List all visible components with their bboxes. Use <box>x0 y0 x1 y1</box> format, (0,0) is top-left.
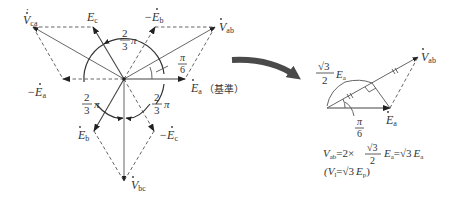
svg-text:2: 2 <box>322 74 328 86</box>
svg-text:Ea: Ea <box>335 68 347 82</box>
phasor-vca <box>33 27 124 79</box>
arc-angle-left <box>84 44 104 82</box>
right-phasor-diagram: Vab Ea √3 2 Ea π 6 Vab=2× √3 2 Ea=√3Ea (… <box>316 50 436 179</box>
fraction-two-thirds-pi-top: 2 3 π <box>120 27 137 52</box>
svg-text:3: 3 <box>122 40 128 52</box>
svg-text:6: 6 <box>180 64 185 75</box>
svg-text:3: 3 <box>154 104 160 116</box>
right-angle-mark <box>365 87 376 92</box>
svg-text:Vab=2×: Vab=2× <box>323 147 354 161</box>
svg-text:π: π <box>164 98 170 110</box>
right-arc-pi-over-6 <box>343 99 345 108</box>
right-brace-right <box>345 80 372 83</box>
dash-vca-minus-ea <box>33 27 63 79</box>
phasor-minus-eb <box>124 27 155 79</box>
arc-angle-bottom-left <box>96 104 123 118</box>
phasor-diagram-canvas: Vca · Ec −Eb Vab Ea （基準） −Ea Eb −Ec Vbc … <box>0 0 458 197</box>
label-minus-ec: −Ec <box>159 128 178 143</box>
label-ec: Ec <box>86 10 98 25</box>
svg-text:2: 2 <box>122 27 128 39</box>
svg-text:Ea=√3Ea: Ea=√3Ea <box>383 147 424 161</box>
origin-point <box>122 77 126 81</box>
svg-text:(Vl=√3Ep): (Vl=√3Ep) <box>324 165 370 179</box>
phasor-vab <box>124 27 215 79</box>
left-phasor-diagram: Vca · Ec −Eb Vab Ea （基準） −Ea Eb −Ec Vbc … <box>23 5 244 193</box>
formula-vab: Vab=2× √3 2 Ea=√3Ea <box>323 142 424 166</box>
formula-line-phase-relation: (Vl=√3Ep) <box>324 165 370 179</box>
svg-text:2: 2 <box>154 91 160 103</box>
svg-text:6: 6 <box>357 128 362 139</box>
label-minus-eb: −Eb <box>144 10 163 25</box>
dash-vab-ea <box>185 27 215 79</box>
svg-text:π: π <box>357 116 363 127</box>
svg-text:π: π <box>180 52 186 63</box>
svg-text:2: 2 <box>370 155 375 166</box>
label-ea: Ea <box>190 81 202 96</box>
right-label-pi-over-6: π 6 <box>355 116 364 139</box>
svg-text:√3: √3 <box>367 142 378 153</box>
svg-text:3: 3 <box>84 104 90 116</box>
svg-text:√3: √3 <box>318 60 330 72</box>
dash-eb-vbc <box>94 131 124 181</box>
label-eb: Eb <box>77 128 89 143</box>
dash-minus-ec-vbc <box>124 131 154 181</box>
svg-text:π: π <box>94 98 100 110</box>
right-label-half-sqrt3-ea: √3 2 Ea <box>316 60 347 86</box>
label-reference: （基準） <box>204 83 244 95</box>
fraction-pi-over-6-left: π 6 <box>178 52 187 75</box>
arc-pi-over-6 <box>150 67 152 79</box>
right-pi6-leader <box>345 102 354 116</box>
right-label-vab: Vab <box>421 50 436 65</box>
right-label-ea: Ea <box>385 113 397 128</box>
label-vbc: Vbc <box>131 178 146 193</box>
transition-arrow-icon <box>232 60 296 76</box>
phasor-ec <box>93 27 124 79</box>
right-phasor-vab <box>327 57 418 108</box>
right-brace-left <box>327 82 345 106</box>
label-minus-ea: −Ea <box>27 85 46 100</box>
label-vab: Vab <box>219 20 234 35</box>
label-vca: Vca <box>23 13 38 28</box>
arc-angle-bottom-right <box>126 104 150 118</box>
fraction-two-thirds-pi-left: 2 3 π <box>82 91 100 116</box>
right-perpendicular <box>372 83 390 108</box>
svg-text:π: π <box>131 34 137 46</box>
svg-text:2: 2 <box>84 91 90 103</box>
